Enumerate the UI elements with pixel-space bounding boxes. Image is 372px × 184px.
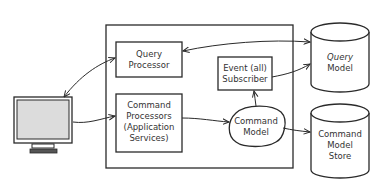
command-model-store-label-line3: Store [329, 151, 351, 161]
event-subscriber-node: Event (all) Subscriber [218, 57, 272, 90]
command-processors-label-line3: (Application [124, 122, 175, 132]
edge-event-subscriber-query-model [272, 64, 310, 77]
edge-command-processors-command-model [182, 118, 229, 122]
edge-client-command-processors [73, 116, 115, 122]
query-processor-label-line2: Processor [129, 60, 170, 70]
client-monitor [14, 97, 72, 153]
cqrs-architecture-diagram: Query Processor Command Processors (Appl… [0, 0, 372, 184]
query-processor-node: Query Processor [116, 42, 182, 77]
command-processors-label-line1: Command [127, 100, 171, 110]
command-model-store-database: Command Model Store [311, 104, 369, 178]
command-model-store-label-line1: Command [318, 129, 362, 139]
query-processor-label-line1: Query [136, 49, 162, 59]
command-model-label-line1: Command [234, 116, 278, 126]
query-model-label-line2: Model [327, 63, 353, 73]
command-model-store-label-line2: Model [327, 140, 353, 150]
command-model-label-line2: Model [243, 127, 269, 137]
query-model-label-line1: Query [327, 52, 354, 62]
edge-command-model-event-subscriber [254, 91, 256, 106]
query-model-database: Query Model [311, 23, 369, 92]
edge-client-query-processor [64, 58, 115, 97]
monitor-icon [14, 97, 72, 153]
edge-query-processor-query-model [183, 41, 310, 51]
event-subscriber-label-line2: Subscriber [222, 74, 268, 84]
command-processors-label-line4: Services) [129, 133, 168, 143]
event-subscriber-label-line1: Event (all) [223, 63, 267, 73]
command-model-node: Command Model [229, 106, 285, 146]
command-processors-node: Command Processors (Application Services… [116, 94, 182, 152]
edge-command-model-store [283, 128, 310, 132]
command-processors-label-line2: Processors [126, 111, 172, 121]
